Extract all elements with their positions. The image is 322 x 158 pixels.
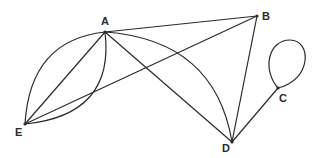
node-d: [230, 140, 233, 143]
edge-a-e-line: [25, 32, 105, 124]
edge-d-c: [232, 88, 278, 142]
edge-b-d: [232, 16, 257, 142]
label-d: D: [222, 142, 230, 154]
node-a: [103, 30, 106, 33]
node-e: [23, 122, 26, 125]
graph-diagram: A B C D E: [0, 0, 322, 158]
label-b: B: [262, 10, 270, 22]
label-e: E: [15, 126, 22, 138]
label-c: C: [279, 92, 287, 104]
node-c: [276, 86, 279, 89]
label-a: A: [101, 15, 109, 27]
node-b: [255, 14, 258, 17]
edge-c-loop: [269, 40, 305, 88]
edge-a-b: [105, 16, 257, 32]
